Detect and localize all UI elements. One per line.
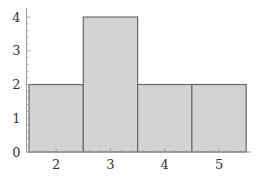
histogram-chart: 012342345 (0, 0, 263, 177)
bar-3 (83, 17, 137, 152)
bar-4 (138, 85, 192, 153)
x-tick-label: 5 (215, 157, 223, 172)
bar-2 (29, 85, 83, 153)
y-tick-label: 1 (12, 111, 20, 126)
y-tick-label: 0 (12, 145, 20, 160)
bar-5 (192, 85, 246, 153)
x-tick-label: 2 (52, 157, 60, 172)
bars-group (29, 17, 246, 152)
x-tick-label: 3 (106, 157, 114, 172)
y-tick-label: 2 (12, 77, 20, 92)
x-tick-label: 4 (161, 157, 169, 172)
y-tick-label: 4 (12, 10, 20, 25)
y-tick-label: 3 (12, 43, 20, 58)
